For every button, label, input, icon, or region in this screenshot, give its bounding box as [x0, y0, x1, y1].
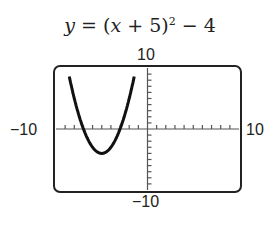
parabola-curve — [69, 77, 134, 154]
graph-window — [0, 0, 280, 225]
y-min-label: −10 — [132, 193, 159, 211]
x-max-label: 10 — [246, 121, 264, 139]
y-max-label: 10 — [137, 46, 155, 64]
x-min-label: −10 — [10, 121, 37, 139]
